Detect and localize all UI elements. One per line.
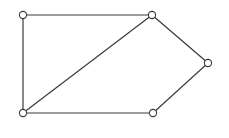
node-c: [204, 59, 211, 66]
node-b: [148, 11, 155, 18]
edges-layer: [23, 15, 208, 113]
node-e: [149, 109, 156, 116]
edge-b-d: [23, 15, 152, 113]
node-a: [19, 11, 26, 18]
nodes-layer: [19, 11, 211, 116]
node-d: [19, 109, 26, 116]
edge-c-e: [153, 63, 208, 113]
graph-diagram: [0, 0, 229, 138]
edge-b-c: [152, 15, 208, 63]
